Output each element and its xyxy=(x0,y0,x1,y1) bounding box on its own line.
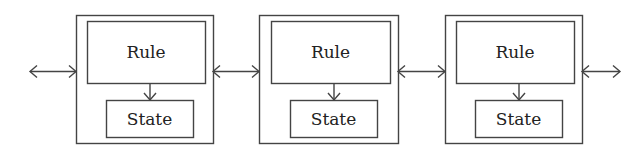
bidirectional-arrow-right-edge xyxy=(582,66,620,78)
state-label: State xyxy=(311,109,357,129)
rule-to-state-arrow xyxy=(513,84,525,101)
state-label: State xyxy=(496,109,542,129)
cell: RuleState xyxy=(260,16,399,144)
state-label: State xyxy=(127,109,173,129)
rule-to-state-arrow xyxy=(144,84,156,101)
rule-to-state-arrow xyxy=(328,84,340,101)
rule-label: Rule xyxy=(311,42,350,62)
bidirectional-arrow-cell1-cell2 xyxy=(213,66,259,78)
rule-label: Rule xyxy=(495,42,534,62)
cells: RuleStateRuleStateRuleState xyxy=(77,16,583,144)
cell: RuleState xyxy=(446,16,583,144)
connectors xyxy=(30,66,620,78)
rule-label: Rule xyxy=(126,42,165,62)
cell: RuleState xyxy=(77,16,214,144)
cellular-chain-diagram: RuleStateRuleStateRuleState xyxy=(0,0,644,152)
bidirectional-arrow-cell2-cell3 xyxy=(398,66,445,78)
bidirectional-arrow-left-edge xyxy=(30,66,76,78)
